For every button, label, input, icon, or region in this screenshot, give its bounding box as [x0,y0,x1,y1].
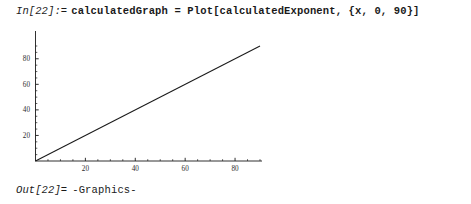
x-tick-labels: 20406080 [82,165,239,173]
y-tick-labels: 20406080 [23,55,31,140]
output-value-text: -Graphics- [72,184,137,196]
input-code-text[interactable]: calculatedGraph = Plot[calculatedExponen… [71,5,419,17]
plot-svg: 20406080 20406080 [0,22,300,172]
data-series-group [36,46,261,161]
x-tick-label: 80 [231,165,239,173]
mathematica-notebook: In[22]:=calculatedGraph = Plot[calculate… [0,0,471,204]
y-tick-label: 40 [23,106,31,114]
x-tick-label: 60 [182,165,190,173]
input-cell[interactable]: In[22]:=calculatedGraph = Plot[calculate… [16,4,420,18]
y-tick-label: 80 [23,55,31,63]
output-prompt-label: Out[22]= [16,184,67,196]
input-prompt-label: In[22]:= [16,5,67,17]
y-tick-label: 20 [23,132,31,140]
output-cell: Out[22]=-Graphics- [16,183,137,197]
x-tick-label: 20 [82,165,90,173]
data-line [36,46,261,161]
y-tick-label: 60 [23,81,31,89]
plot-graphics-cell[interactable]: 20406080 20406080 [0,22,300,172]
x-tick-label: 40 [132,165,140,173]
